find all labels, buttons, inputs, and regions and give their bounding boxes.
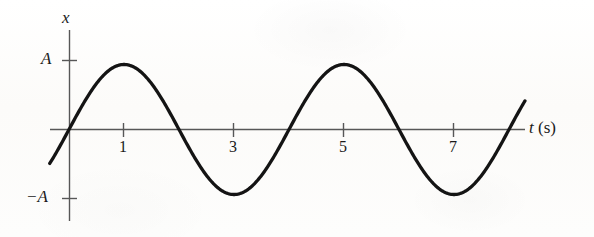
y-tick-label-negative-amplitude: −A <box>26 188 48 205</box>
sine-wave-figure: x t (s) A −A 1 3 5 7 <box>0 0 594 237</box>
y-axis-label: x <box>62 9 70 26</box>
y-tick-label-amplitude: A <box>41 50 51 67</box>
plot-canvas <box>0 0 594 237</box>
x-tick-label-7: 7 <box>443 139 463 155</box>
x-tick-label-1: 1 <box>113 139 133 155</box>
x-axis-label: t (s) <box>529 119 556 136</box>
x-axis-unit: (s) <box>538 118 556 137</box>
x-tick-label-3: 3 <box>223 139 243 155</box>
x-tick-label-5: 5 <box>333 139 353 155</box>
